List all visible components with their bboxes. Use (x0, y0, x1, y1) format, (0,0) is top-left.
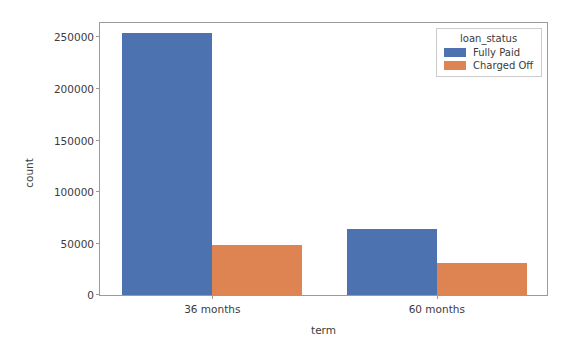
y-axis-tick (96, 140, 100, 141)
y-axis-tick (96, 294, 100, 295)
legend-entries: Fully PaidCharged Off (444, 47, 533, 71)
x-axis-tick (437, 295, 438, 299)
legend-title: loan_status (444, 33, 533, 44)
x-axis-tick-label: 36 months (184, 303, 240, 315)
x-axis-label: term (99, 324, 548, 336)
y-axis-tick-label: 50000 (61, 238, 94, 250)
x-axis-tick (212, 295, 213, 299)
y-axis-tick-label: 200000 (54, 83, 94, 95)
bar (437, 263, 527, 295)
y-axis-label: count (23, 158, 35, 188)
legend-entry-label: Fully Paid (473, 47, 520, 58)
legend-swatch-icon (444, 61, 466, 70)
y-axis-tick (96, 88, 100, 89)
y-axis-tick (96, 243, 100, 244)
legend-swatch-icon (444, 48, 466, 57)
legend-entry: Fully Paid (444, 47, 533, 58)
legend: loan_status Fully PaidCharged Off (436, 28, 542, 77)
y-axis-tick-label: 150000 (54, 135, 94, 147)
x-axis-tick-label: 60 months (409, 303, 465, 315)
y-axis-tick-label: 100000 (54, 186, 94, 198)
y-axis-tick (96, 191, 100, 192)
bar-chart-figure: count 050000100000150000200000250000 36 … (0, 0, 574, 345)
y-axis-tick (96, 36, 100, 37)
y-axis-tick-label: 0 (87, 289, 94, 301)
y-axis-tick-label: 250000 (54, 31, 94, 43)
bar (122, 33, 212, 295)
bar (212, 245, 302, 295)
legend-entry: Charged Off (444, 60, 533, 71)
legend-entry-label: Charged Off (473, 60, 533, 71)
bar (347, 229, 437, 295)
